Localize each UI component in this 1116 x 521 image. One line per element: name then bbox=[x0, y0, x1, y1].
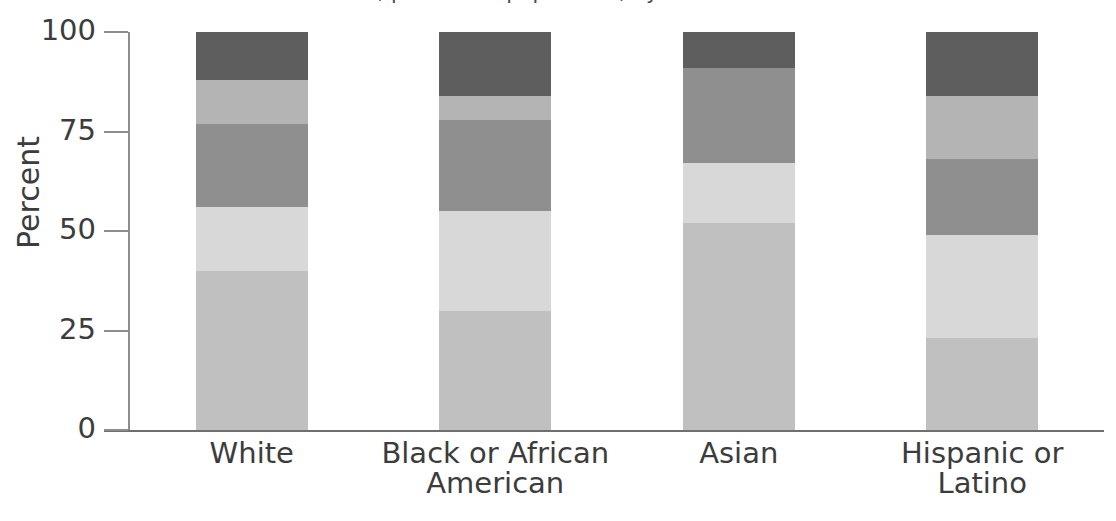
bar-segment[interactable] bbox=[683, 223, 795, 430]
bar-column bbox=[196, 32, 308, 430]
bar-column bbox=[683, 32, 795, 430]
chart-title: Education attainment, percent of populat… bbox=[148, 0, 712, 4]
bar-segment[interactable] bbox=[926, 338, 1038, 430]
stacked-bar[interactable] bbox=[926, 32, 1038, 430]
bar-segment[interactable] bbox=[439, 120, 551, 212]
bar-segment[interactable] bbox=[926, 159, 1038, 235]
stacked-bar[interactable] bbox=[683, 32, 795, 430]
bar-segment[interactable] bbox=[926, 96, 1038, 160]
bar-column bbox=[439, 32, 551, 430]
y-axis-tick bbox=[104, 429, 128, 431]
y-axis-tick-label: 0 bbox=[0, 414, 96, 443]
stacked-bar-chart: Education attainment, percent of populat… bbox=[0, 0, 1116, 521]
y-axis-tick bbox=[104, 131, 128, 133]
bar-segment[interactable] bbox=[926, 235, 1038, 338]
bar-segment[interactable] bbox=[196, 271, 308, 430]
bar-segment[interactable] bbox=[439, 32, 551, 96]
bar-segment[interactable] bbox=[683, 32, 795, 68]
y-axis-line bbox=[128, 32, 130, 432]
x-axis-category-label: Hispanic orLatino bbox=[822, 438, 1116, 498]
bar-segment[interactable] bbox=[439, 96, 551, 120]
bar-segment[interactable] bbox=[439, 211, 551, 311]
y-axis-tick bbox=[104, 31, 128, 33]
y-axis-tick bbox=[104, 230, 128, 232]
bar-segment[interactable] bbox=[196, 124, 308, 208]
x-axis-category-label-line: Latino bbox=[822, 468, 1116, 498]
bar-segment[interactable] bbox=[926, 32, 1038, 96]
x-axis-category-label-line: Hispanic or bbox=[822, 438, 1116, 468]
y-axis-tick-label: 25 bbox=[0, 315, 96, 344]
bar-segment[interactable] bbox=[683, 68, 795, 164]
bar-segment[interactable] bbox=[683, 163, 795, 223]
y-axis-tick bbox=[104, 330, 128, 332]
stacked-bar[interactable] bbox=[439, 32, 551, 430]
x-axis-category-label-line: American bbox=[335, 468, 655, 498]
y-axis-tick-label: 75 bbox=[0, 116, 96, 145]
bar-segment[interactable] bbox=[196, 32, 308, 80]
bar-segment[interactable] bbox=[196, 207, 308, 271]
x-axis-line bbox=[104, 430, 1104, 432]
y-axis-tick-label: 100 bbox=[0, 16, 96, 45]
bar-column bbox=[926, 32, 1038, 430]
bar-segment[interactable] bbox=[196, 80, 308, 124]
y-axis-tick-label: 50 bbox=[0, 215, 96, 244]
stacked-bar[interactable] bbox=[196, 32, 308, 430]
chart-title-clip: Education attainment, percent of populat… bbox=[0, 0, 1116, 6]
bar-segment[interactable] bbox=[439, 311, 551, 430]
